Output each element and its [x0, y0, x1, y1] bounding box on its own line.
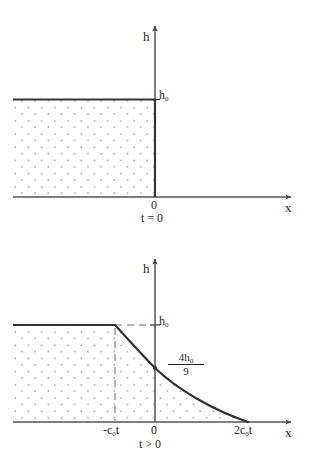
h0-label-later-sub: 0 — [165, 321, 169, 329]
left-front-label-tail: t — [116, 423, 119, 437]
mid-depth-fraction: 4h0 9 — [168, 352, 204, 377]
right-front-label-base: 2c — [234, 423, 245, 437]
left-front-label: -c0t — [103, 424, 119, 436]
mid-depth-numerator: 4h0 — [168, 352, 204, 363]
origin-label-initial: 0 — [151, 199, 157, 211]
mid-depth-numerator-sub: 0 — [190, 357, 194, 365]
mid-depth-marker — [153, 366, 157, 370]
right-front-label-tail: t — [249, 423, 252, 437]
h0-label-later: h0 — [159, 315, 169, 327]
mid-depth-numerator-base: 4h — [179, 351, 190, 363]
right-front-label-sub: 0 — [245, 430, 249, 438]
y-axis-label-later: h — [143, 262, 150, 275]
h0-label-initial: h0 — [159, 89, 169, 101]
time-label-later: t > 0 — [139, 438, 161, 450]
water-region-initial — [13, 100, 155, 198]
dam-break-figure — [0, 0, 318, 462]
y-axis-label-initial: h — [143, 30, 150, 43]
left-front-label-base: -c — [103, 423, 112, 437]
right-front-label: 2c0t — [234, 424, 252, 436]
origin-label-later: 0 — [151, 424, 157, 436]
x-axis-label-later: x — [285, 426, 292, 439]
h0-label-initial-sub: 0 — [165, 95, 169, 103]
left-front-label-sub: 0 — [112, 430, 116, 438]
time-label-initial: t = 0 — [141, 212, 163, 224]
mid-depth-denominator: 9 — [168, 366, 204, 377]
x-axis-label-initial: x — [285, 201, 292, 214]
